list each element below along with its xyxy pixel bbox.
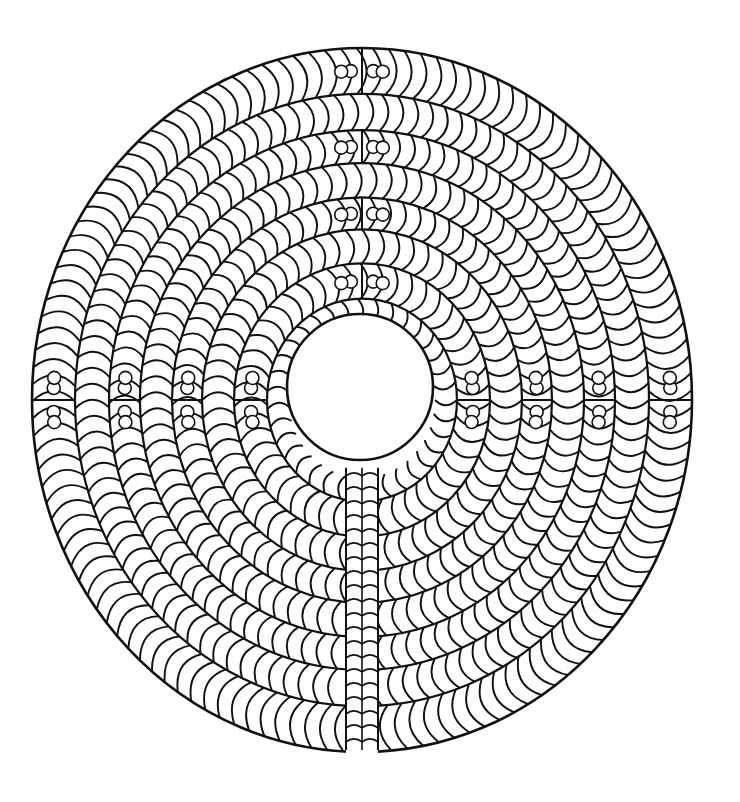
plaque-circle [663, 371, 676, 384]
plaque-circle [182, 416, 195, 429]
inner-hole [287, 314, 433, 460]
plaque-circle [465, 371, 478, 384]
plaque-circle [246, 416, 259, 429]
plaque-circle [335, 141, 348, 154]
plaque-circle [376, 65, 389, 78]
plaque-circle [182, 371, 195, 384]
plaque-circle [376, 277, 389, 290]
plaque-circle [663, 416, 676, 429]
labyrinth-drawing [0, 0, 740, 802]
plaque-circle [376, 141, 389, 154]
plaque-circle [376, 208, 389, 221]
plaque-circle [246, 371, 259, 384]
plaque-circle [529, 416, 542, 429]
plaque-circle [119, 371, 132, 384]
plaque-circle [335, 277, 348, 290]
labyrinth-svg [0, 0, 740, 802]
plaque-circle [335, 208, 348, 221]
plaque-circle [48, 416, 61, 429]
plaque-circle [335, 65, 348, 78]
plaque-circle [592, 416, 605, 429]
plaque-circle [592, 371, 605, 384]
plaque-circle [529, 371, 542, 384]
plaque-circle [48, 371, 61, 384]
plaque-circle [465, 416, 478, 429]
plaque-circle [119, 416, 132, 429]
